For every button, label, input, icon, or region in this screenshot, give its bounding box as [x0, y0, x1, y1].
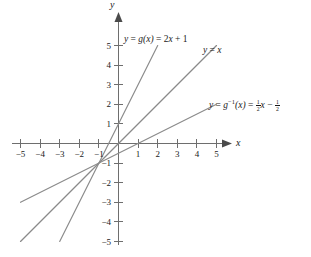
x-tick-label-1: 1: [136, 150, 141, 159]
label-identity-var: x: [217, 45, 221, 55]
label-ginv-arg: (x): [235, 100, 246, 110]
y-tick-label--5: −5: [101, 237, 111, 246]
label-g-plus: +: [175, 34, 180, 44]
x-axis-arrowhead: [222, 140, 232, 148]
label-g-equals-2: =: [156, 34, 161, 44]
line-label-g: y = g(x) = 2x + 1: [124, 35, 188, 45]
y-axis-label: y: [110, 0, 114, 10]
label-ginv-var: x: [261, 100, 265, 110]
label-g-arg: (x): [143, 34, 154, 44]
y-tick-label-2: 2: [107, 100, 112, 109]
y-tick-label--2: −2: [101, 178, 111, 187]
x-tick-label-2: 2: [155, 150, 160, 159]
label-ginv-equals-1: =: [216, 100, 221, 110]
label-ginv-equals-2: =: [248, 100, 253, 110]
x-tick-label--2: −2: [75, 150, 85, 159]
label-ginv-fraction-half-slope: 12: [256, 99, 261, 112]
label-g-var: x: [168, 34, 172, 44]
label-ginv-lhs: y: [209, 100, 213, 110]
x-tick-label--4: −4: [35, 150, 45, 159]
y-tick-label-1: 1: [107, 119, 112, 128]
label-g-lhs: y: [124, 34, 128, 44]
x-tick-label--5: −5: [16, 150, 26, 159]
x-tick-label-3: 3: [175, 150, 180, 159]
graph-figure: −5 −4 −3 −2 −1 1 2 3 4 5 5 4 3 2 1 −1 −2…: [0, 0, 311, 257]
y-tick-label-3: 3: [107, 80, 112, 89]
label-ginv-superscript: −1: [228, 98, 235, 105]
x-axis-label: x: [236, 138, 240, 148]
line-label-g-inverse: y = g−1(x) = 12x − 12: [209, 99, 280, 113]
y-tick-label--3: −3: [101, 198, 111, 207]
label-ginv-fraction-half-intercept: 12: [275, 99, 280, 112]
line-label-identity: y = x: [203, 46, 222, 56]
y-tick-label--1: −1: [101, 159, 111, 168]
y-axis-arrowhead: [115, 12, 123, 22]
label-ginv-frac2-denominator: 2: [275, 105, 280, 112]
y-tick-label-5: 5: [107, 41, 112, 50]
x-tick-label-5: 5: [214, 150, 219, 159]
label-identity-lhs: y: [203, 45, 207, 55]
x-tick-label-4: 4: [195, 150, 200, 159]
label-ginv-minus: −: [267, 100, 272, 110]
label-ginv-frac1-denominator: 2: [256, 105, 261, 112]
label-g-equals-1: =: [131, 34, 136, 44]
y-tick-label--4: −4: [101, 217, 111, 226]
y-tick-label-4: 4: [107, 61, 112, 70]
label-g-const: 1: [183, 34, 188, 44]
label-identity-equals: =: [210, 45, 215, 55]
x-tick-label--3: −3: [55, 150, 65, 159]
